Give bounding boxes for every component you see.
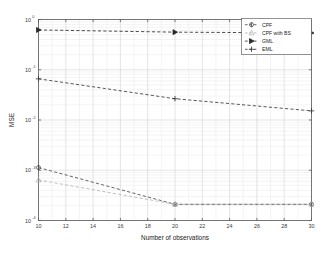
x-tick-label: 30 [309, 223, 315, 229]
y-axis-title: MSE [8, 113, 15, 127]
y-tick-label: 10 [25, 117, 31, 123]
legend-label: EML [262, 46, 273, 52]
x-tick-label: 22 [199, 223, 205, 229]
y-tick-label: 10 [25, 67, 31, 73]
x-tick-label: 10 [36, 223, 42, 229]
legend-label: CPF [262, 22, 272, 28]
y-tick-label: 10 [25, 17, 31, 23]
y-tick-exponent: -4 [32, 216, 35, 220]
x-tick-label: 24 [227, 223, 233, 229]
y-tick-exponent: 0 [32, 15, 34, 19]
legend-label: CPF with BS [262, 30, 291, 36]
chart-figure: 1012141618202224262830 10010-110-210-310… [0, 0, 322, 261]
x-tick-label: 28 [281, 223, 287, 229]
x-axis-title: Number of observations [141, 234, 209, 241]
legend-label: GML [262, 38, 273, 44]
chart-legend: CPFCPF with BSGMLEML [242, 19, 312, 55]
legend-item-cpf-with-bs[interactable]: CPF with BS [245, 30, 291, 36]
y-tick-exponent: -1 [32, 65, 35, 69]
x-tick-label: 18 [145, 223, 151, 229]
y-tick-label: 10 [25, 167, 31, 173]
y-tick-exponent: -3 [32, 166, 35, 170]
x-tick-label: 14 [90, 223, 96, 229]
y-tick-exponent: -2 [32, 116, 35, 120]
x-tick-label: 20 [172, 223, 178, 229]
y-tick-label: 10 [25, 218, 31, 224]
x-tick-label: 16 [117, 223, 123, 229]
x-tick-label: 26 [254, 223, 260, 229]
mse-vs-observations-chart: 1012141618202224262830 10010-110-210-310… [0, 0, 322, 261]
x-tick-label: 12 [63, 223, 69, 229]
